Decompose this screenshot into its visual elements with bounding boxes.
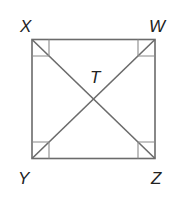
vertex-label-w: W — [149, 17, 167, 36]
intersection-label-t: T — [90, 68, 102, 87]
vertex-label-z: Z — [150, 169, 162, 188]
vertex-label-y: Y — [18, 169, 31, 188]
vertex-label-x: X — [19, 17, 32, 36]
geometry-diagram: X W Y Z T — [0, 0, 174, 205]
